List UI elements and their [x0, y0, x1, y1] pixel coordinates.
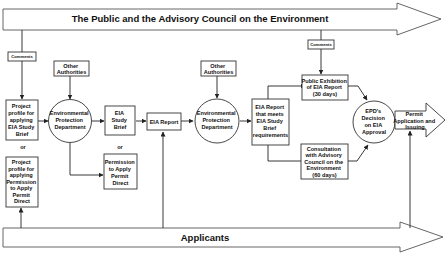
public-lane-label: The Public and the Advisory Council on t…: [72, 13, 330, 24]
epd-decision-circle: EPD's Decision on EIA Approval: [353, 101, 395, 143]
public-exhibition-box: Public Exhibition of EIA Report (30 days…: [302, 75, 349, 100]
epd-decision-line: Decision: [362, 115, 386, 121]
applicants-lane-label: Applicants: [181, 232, 230, 243]
public-exhibition-line: (30 days): [313, 91, 337, 97]
svg-text:Environmental Protection: Environmental Protection Department: [197, 110, 237, 130]
comments-left-label: Comments: [11, 54, 33, 59]
consultation-line: (60 days): [312, 172, 336, 178]
other-authorities-1-line: Authorities: [57, 69, 87, 75]
project-profile-line: EIA Study: [8, 124, 35, 130]
public-exhibition-line: of EIA Report: [306, 84, 342, 90]
or-label-middle: or: [117, 144, 123, 150]
project-profile-permit-line: Project: [12, 159, 31, 165]
epd-1-line: Department: [54, 124, 85, 130]
eia-study-brief-line: Study: [111, 117, 127, 123]
svg-text:EIA Report that meets: EIA Report that meets EIA Study Brief re…: [253, 104, 288, 138]
permission-line: Permit: [111, 173, 129, 179]
comments-right-label: Comments: [310, 42, 332, 47]
eia-study-brief-line: EIA: [115, 110, 124, 116]
public-exhibition-line: Public Exhibition: [302, 78, 348, 84]
eia-report-meets-line: that meets: [256, 111, 284, 117]
comments-box-right: Comments: [308, 40, 334, 49]
svg-text:Environmental Protection: Environmental Protection Department: [50, 110, 90, 130]
project-profile-permit-line: Direct: [14, 198, 30, 204]
eia-study-brief-box: EIA Study Brief: [105, 106, 135, 135]
public-advisory-council-lane: The Public and the Advisory Council on t…: [3, 3, 441, 35]
consultation-line: Consultation: [307, 146, 342, 152]
consultation-line: with Advisory: [304, 152, 342, 158]
other-authorities-box-2: Other Authorities: [201, 61, 236, 76]
permit-application-line: Permit: [406, 111, 424, 117]
project-profile-line: Project: [12, 103, 31, 109]
eia-report-meets-requirements-box: EIA Report that meets EIA Study Brief re…: [252, 99, 289, 145]
eia-report-meets-line: requirements: [253, 132, 288, 138]
epd-decision-line: EPD's: [365, 108, 381, 114]
permit-application-arrow: Permit Application and Issuing: [393, 103, 445, 137]
epd-circle-2: Environmental Protection Department: [195, 99, 239, 143]
epd-circle-1: Environmental Protection Department: [49, 100, 92, 143]
eia-process-flowchart: The Public and the Advisory Council on t…: [0, 0, 448, 259]
eia-study-brief-line: Brief: [114, 124, 127, 130]
project-profile-permit-line: profile for: [8, 166, 35, 172]
other-authorities-2-line: Authorities: [204, 69, 234, 75]
epd-2-line: Department: [201, 124, 232, 130]
epd-1-line: Environmental: [50, 110, 89, 116]
epd-decision-line: Approval: [362, 129, 387, 135]
project-profile-permit-line: Permit: [13, 192, 31, 198]
permit-application-line: Application and: [393, 118, 436, 124]
consultation-line: Environment: [307, 165, 341, 171]
applicants-lane: Applicants: [3, 222, 443, 252]
other-authorities-box-1: Other Authorities: [54, 61, 89, 76]
epd-decision-line: on EIA: [364, 122, 382, 128]
permission-line: to Apply: [109, 166, 132, 172]
permission-line: Permission: [105, 159, 136, 165]
project-profile-permit-line: Permission: [6, 179, 37, 185]
epd-1-line: Protection: [55, 117, 83, 123]
comments-box-left: Comments: [8, 52, 36, 61]
consultation-line: Council on the: [304, 159, 343, 165]
project-profile-study-brief-box: Project profile for applying EIA Study B…: [6, 100, 38, 140]
eia-report-meets-line: EIA Study: [257, 118, 284, 124]
project-profile-line: profile for: [8, 110, 35, 116]
or-label-left: or: [20, 144, 26, 150]
consultation-box: Consultation with Advisory Council on th…: [301, 144, 348, 179]
eia-report-label: EIA Report: [150, 119, 179, 125]
project-profile-permit-direct-box: Project profile for applying Permission …: [6, 157, 38, 207]
permission-line: Direct: [113, 180, 129, 186]
project-profile-line: applying: [10, 117, 34, 123]
permission-permit-direct-box: Permission to Apply Permit Direct: [104, 154, 137, 189]
project-profile-line: Brief: [16, 131, 29, 137]
epd-2-line: Environmental: [197, 110, 236, 116]
eia-report-meets-line: EIA Report: [255, 104, 284, 110]
permit-application-line: Issuing: [405, 124, 425, 130]
project-profile-permit-line: applying: [10, 172, 34, 178]
eia-report-box: EIA Report: [147, 113, 181, 130]
project-profile-permit-line: to Apply: [10, 185, 33, 191]
epd-2-line: Protection: [202, 117, 230, 123]
eia-report-meets-line: Brief: [263, 125, 276, 131]
